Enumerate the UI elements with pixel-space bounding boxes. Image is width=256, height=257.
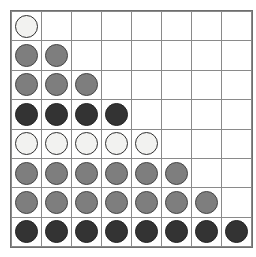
disc-dark[interactable] xyxy=(195,220,218,243)
grid-cell-r4-c6[interactable] xyxy=(162,100,192,129)
disc-dark[interactable] xyxy=(105,103,128,126)
grid-cell-r4-c3[interactable] xyxy=(72,100,102,129)
grid-cell-r3-c1[interactable] xyxy=(12,70,42,99)
grid-cell-r4-c8[interactable] xyxy=(222,100,252,129)
grid-cell-r7-c1[interactable] xyxy=(12,188,42,217)
disc-white[interactable] xyxy=(75,132,98,155)
disc-gray[interactable] xyxy=(15,44,38,67)
grid-cell-r5-c4[interactable] xyxy=(102,129,132,158)
grid-cell-r3-c2[interactable] xyxy=(42,70,72,99)
disc-gray[interactable] xyxy=(15,162,38,185)
disc-gray[interactable] xyxy=(135,162,158,185)
disc-gray[interactable] xyxy=(15,73,38,96)
disc-dark[interactable] xyxy=(45,103,68,126)
grid-cell-r2-c6[interactable] xyxy=(162,41,192,70)
grid-cell-r7-c2[interactable] xyxy=(42,188,72,217)
grid-cell-r7-c6[interactable] xyxy=(162,188,192,217)
grid-cell-r1-c1[interactable] xyxy=(12,12,42,41)
disc-gray[interactable] xyxy=(45,191,68,214)
grid-cell-r8-c6[interactable] xyxy=(162,217,192,246)
disc-gray[interactable] xyxy=(165,162,188,185)
grid-cell-r6-c8[interactable] xyxy=(222,158,252,187)
grid-cell-r6-c2[interactable] xyxy=(42,158,72,187)
grid-cell-r2-c4[interactable] xyxy=(102,41,132,70)
grid-cell-r4-c2[interactable] xyxy=(42,100,72,129)
grid-cell-r7-c4[interactable] xyxy=(102,188,132,217)
grid-cell-r3-c3[interactable] xyxy=(72,70,102,99)
disc-dark[interactable] xyxy=(135,220,158,243)
grid-cell-r4-c4[interactable] xyxy=(102,100,132,129)
grid-cell-r5-c7[interactable] xyxy=(192,129,222,158)
grid-cell-r5-c5[interactable] xyxy=(132,129,162,158)
grid-cell-r2-c5[interactable] xyxy=(132,41,162,70)
disc-gray[interactable] xyxy=(105,162,128,185)
grid-cell-r3-c6[interactable] xyxy=(162,70,192,99)
grid-cell-r3-c8[interactable] xyxy=(222,70,252,99)
disc-dark[interactable] xyxy=(45,220,68,243)
grid-cell-r3-c7[interactable] xyxy=(192,70,222,99)
grid-cell-r7-c7[interactable] xyxy=(192,188,222,217)
grid-cell-r6-c7[interactable] xyxy=(192,158,222,187)
grid-cell-r1-c2[interactable] xyxy=(42,12,72,41)
grid-cell-r3-c4[interactable] xyxy=(102,70,132,99)
disc-gray[interactable] xyxy=(45,162,68,185)
disc-gray[interactable] xyxy=(165,191,188,214)
grid-cell-r1-c7[interactable] xyxy=(192,12,222,41)
disc-gray[interactable] xyxy=(75,191,98,214)
disc-dark[interactable] xyxy=(165,220,188,243)
disc-dark[interactable] xyxy=(75,220,98,243)
grid-cell-r6-c4[interactable] xyxy=(102,158,132,187)
grid-cell-r6-c3[interactable] xyxy=(72,158,102,187)
grid-cell-r8-c8[interactable] xyxy=(222,217,252,246)
grid-cell-r4-c7[interactable] xyxy=(192,100,222,129)
grid-cell-r1-c3[interactable] xyxy=(72,12,102,41)
disc-white[interactable] xyxy=(135,132,158,155)
disc-dark[interactable] xyxy=(15,103,38,126)
grid-cell-r5-c3[interactable] xyxy=(72,129,102,158)
grid-cell-r8-c3[interactable] xyxy=(72,217,102,246)
grid-cell-r7-c3[interactable] xyxy=(72,188,102,217)
grid-cell-r7-c5[interactable] xyxy=(132,188,162,217)
disc-gray[interactable] xyxy=(45,73,68,96)
grid-cell-r5-c8[interactable] xyxy=(222,129,252,158)
grid-cell-r8-c4[interactable] xyxy=(102,217,132,246)
grid-cell-r2-c8[interactable] xyxy=(222,41,252,70)
grid-cell-r8-c5[interactable] xyxy=(132,217,162,246)
grid-cell-r8-c2[interactable] xyxy=(42,217,72,246)
disc-gray[interactable] xyxy=(15,191,38,214)
disc-gray[interactable] xyxy=(135,191,158,214)
disc-dark[interactable] xyxy=(225,220,248,243)
disc-gray[interactable] xyxy=(195,191,218,214)
grid-cell-r4-c1[interactable] xyxy=(12,100,42,129)
disc-gray[interactable] xyxy=(45,44,68,67)
grid-cell-r6-c5[interactable] xyxy=(132,158,162,187)
disc-gray[interactable] xyxy=(75,162,98,185)
grid-cell-r5-c2[interactable] xyxy=(42,129,72,158)
grid-cell-r5-c6[interactable] xyxy=(162,129,192,158)
grid-cell-r6-c1[interactable] xyxy=(12,158,42,187)
grid-cell-r8-c7[interactable] xyxy=(192,217,222,246)
disc-white[interactable] xyxy=(105,132,128,155)
grid-cell-r1-c4[interactable] xyxy=(102,12,132,41)
disc-dark[interactable] xyxy=(75,103,98,126)
disc-gray[interactable] xyxy=(75,73,98,96)
disc-white[interactable] xyxy=(45,132,68,155)
grid-cell-r2-c1[interactable] xyxy=(12,41,42,70)
disc-gray[interactable] xyxy=(105,191,128,214)
grid-cell-r2-c2[interactable] xyxy=(42,41,72,70)
grid-cell-r1-c8[interactable] xyxy=(222,12,252,41)
grid-cell-r2-c7[interactable] xyxy=(192,41,222,70)
grid-cell-r1-c5[interactable] xyxy=(132,12,162,41)
grid-cell-r7-c8[interactable] xyxy=(222,188,252,217)
grid-cell-r6-c6[interactable] xyxy=(162,158,192,187)
grid-cell-r3-c5[interactable] xyxy=(132,70,162,99)
grid-cell-r8-c1[interactable] xyxy=(12,217,42,246)
grid-cell-r4-c5[interactable] xyxy=(132,100,162,129)
grid-cell-r2-c3[interactable] xyxy=(72,41,102,70)
grid-cell-r5-c1[interactable] xyxy=(12,129,42,158)
disc-dark[interactable] xyxy=(15,220,38,243)
disc-white[interactable] xyxy=(15,15,38,38)
grid-cell-r1-c6[interactable] xyxy=(162,12,192,41)
disc-white[interactable] xyxy=(15,132,38,155)
disc-dark[interactable] xyxy=(105,220,128,243)
